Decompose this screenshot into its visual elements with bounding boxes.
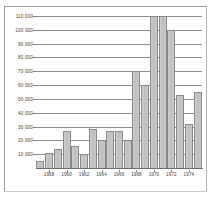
bar-fill bbox=[151, 17, 157, 168]
bar-fill bbox=[125, 141, 131, 168]
bar bbox=[141, 85, 149, 168]
x-axis-labels: 195819601962196419661968197019721974 bbox=[36, 170, 203, 184]
y-axis-tick-label: 80 000 bbox=[18, 55, 33, 60]
bar-fill bbox=[195, 93, 201, 168]
y-axis-tick-label: 30 000 bbox=[18, 124, 33, 129]
bar-fill bbox=[142, 86, 148, 168]
gridline bbox=[36, 30, 202, 31]
gridline bbox=[36, 44, 202, 45]
bar bbox=[63, 131, 71, 168]
bar-fill bbox=[133, 72, 139, 168]
bar bbox=[115, 131, 123, 168]
x-axis-tick-label: 1960 bbox=[61, 172, 72, 177]
bar bbox=[80, 154, 88, 168]
x-axis-tick-label: 1964 bbox=[96, 172, 107, 177]
x-axis-line bbox=[36, 168, 203, 169]
bar bbox=[98, 140, 106, 168]
bar-fill bbox=[160, 17, 166, 168]
y-axis-tick-label: 100 000 bbox=[15, 27, 33, 32]
gridline bbox=[36, 16, 202, 17]
x-axis-tick-label: 1974 bbox=[184, 172, 195, 177]
chart-figure: 110 000100 00090 00080 00070 00060 00050… bbox=[0, 0, 214, 199]
bar-fill bbox=[55, 150, 61, 168]
bar-fill bbox=[186, 125, 192, 168]
y-axis-tick-label: 110 000 bbox=[16, 14, 33, 19]
y-axis-tick-label: 70 000 bbox=[18, 69, 33, 74]
gridline bbox=[36, 57, 202, 58]
y-axis-tick-label: 60 000 bbox=[18, 83, 33, 88]
bar bbox=[185, 124, 193, 168]
x-axis-tick-label: 1962 bbox=[79, 172, 90, 177]
bar bbox=[124, 140, 132, 168]
y-axis-labels: 110 000100 00090 00080 00070 00060 00050… bbox=[0, 16, 33, 168]
gridline bbox=[36, 71, 202, 72]
bar bbox=[132, 71, 140, 168]
y-axis-tick-label: 90 000 bbox=[18, 41, 33, 46]
bar bbox=[167, 30, 175, 168]
bar-fill bbox=[81, 155, 87, 168]
y-axis-tick-label: 20 000 bbox=[18, 138, 33, 143]
x-axis-tick-label: 1968 bbox=[131, 172, 142, 177]
bar bbox=[54, 149, 62, 168]
bar bbox=[106, 131, 114, 168]
plot-area bbox=[36, 16, 202, 168]
bar bbox=[45, 153, 53, 168]
x-axis-tick-label: 1970 bbox=[149, 172, 160, 177]
y-axis-tick-label: 10 000 bbox=[18, 152, 33, 157]
bar bbox=[89, 129, 97, 168]
bar bbox=[150, 16, 158, 168]
bar-fill bbox=[177, 96, 183, 168]
bar-fill bbox=[107, 132, 113, 168]
gridline bbox=[36, 85, 202, 86]
bar-fill bbox=[99, 141, 105, 168]
bar-fill bbox=[116, 132, 122, 168]
y-axis-tick-label: 50 000 bbox=[18, 96, 33, 101]
bar bbox=[159, 16, 167, 168]
bar bbox=[36, 161, 44, 168]
bar-fill bbox=[168, 31, 174, 168]
bar-fill bbox=[72, 147, 78, 168]
x-axis-tick-label: 1958 bbox=[44, 172, 55, 177]
bar bbox=[176, 95, 184, 168]
bar-fill bbox=[46, 154, 52, 168]
y-axis-tick-label: 40 000 bbox=[18, 110, 33, 115]
bar-fill bbox=[64, 132, 70, 168]
x-axis-tick-label: 1966 bbox=[114, 172, 125, 177]
x-axis-tick-label: 1972 bbox=[166, 172, 177, 177]
bar-fill bbox=[90, 130, 96, 168]
bar bbox=[194, 92, 202, 168]
bar bbox=[71, 146, 79, 168]
